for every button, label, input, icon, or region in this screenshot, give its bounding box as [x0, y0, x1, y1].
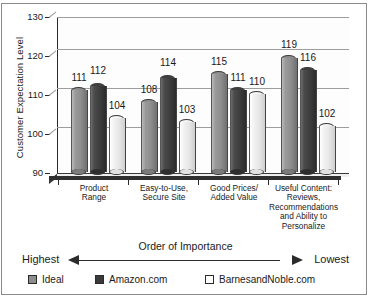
bar-base — [230, 169, 245, 175]
bar-body — [281, 58, 298, 172]
bar-barnesandnoble-3[interactable]: 110 — [249, 94, 264, 172]
bar-base — [249, 169, 264, 175]
y-tick-label-90: 90 — [19, 168, 43, 177]
bar-group-product-range: 111 112 104 — [71, 16, 133, 172]
y-tick-label-110: 110 — [19, 90, 43, 99]
legend-label: Amazon.com — [109, 274, 167, 285]
grid-riser-100 — [49, 129, 57, 135]
bar-value-label: 116 — [293, 53, 323, 63]
bar-value-label: 114 — [153, 58, 183, 68]
category-line: Personalize — [268, 222, 339, 231]
bar-body — [141, 102, 158, 172]
legend-label: Ideal — [42, 274, 64, 285]
bar-amazon-2[interactable]: 114 — [160, 78, 175, 172]
chart-legend: Ideal Amazon.com BarnesandNoble.com — [0, 274, 371, 292]
chart-container: Customer Expectation Level 130 120 110 1… — [0, 0, 371, 299]
arrow-right-icon — [292, 255, 303, 265]
bar-ideal-1[interactable]: 111 — [71, 90, 86, 172]
bar-barnesandnoble-4[interactable]: 102 — [319, 126, 334, 172]
bar-body — [71, 90, 88, 172]
bar-base — [71, 169, 86, 175]
bar-barnesandnoble-2[interactable]: 103 — [179, 122, 194, 172]
y-tick-label-130: 130 — [19, 12, 43, 21]
importance-lowest-label: Lowest — [314, 253, 349, 265]
category-line: Secure Site — [129, 193, 199, 202]
y-tick-label-100: 100 — [19, 129, 43, 138]
floor-front-edge — [49, 176, 341, 180]
plot-area: 130 120 110 100 90 111 — [49, 17, 349, 180]
category-separator — [58, 180, 59, 185]
bar-base — [141, 169, 156, 175]
bar-value-label: 119 — [274, 40, 304, 50]
bar-base — [281, 169, 296, 175]
bar-base — [319, 169, 334, 175]
legend-swatch-icon — [205, 275, 214, 284]
legend-item-barnesandnoble[interactable]: BarnesandNoble.com — [205, 274, 315, 285]
legend-item-ideal[interactable]: Ideal — [28, 274, 64, 285]
bar-barnesandnoble-1[interactable]: 104 — [109, 118, 124, 172]
bar-ideal-2[interactable]: 108 — [141, 102, 156, 172]
bar-body — [179, 122, 196, 172]
bar-base — [160, 169, 175, 175]
category-line: Range — [61, 193, 127, 202]
bar-base — [179, 169, 194, 175]
bar-body — [230, 90, 247, 172]
bar-body — [109, 118, 126, 172]
bar-amazon-3[interactable]: 111 — [230, 90, 245, 172]
bar-body — [90, 86, 107, 172]
y-tick-label-120: 120 — [19, 51, 43, 60]
importance-direction-row: Highest Lowest — [0, 253, 371, 269]
category-label-easy-to-use: Easy-to-Use, Secure Site — [129, 184, 199, 203]
arrow-line — [78, 260, 280, 261]
bar-base — [90, 169, 105, 175]
bar-body — [249, 94, 266, 172]
bar-body — [211, 74, 228, 172]
importance-highest-label: Highest — [22, 253, 59, 265]
bar-body — [160, 78, 177, 172]
bar-group-easy-to-use: 108 114 103 — [141, 16, 203, 172]
bar-base — [109, 169, 124, 175]
category-label-useful-content: Useful Content: Reviews, Recommendations… — [268, 184, 339, 231]
bar-value-label: 104 — [102, 101, 132, 111]
bar-value-label: 115 — [204, 57, 234, 67]
bar-value-label: 110 — [242, 77, 272, 87]
bar-base — [300, 169, 315, 175]
legend-swatch-icon — [28, 275, 37, 284]
bar-ideal-3[interactable]: 115 — [211, 74, 226, 172]
x-axis-title: Order of Importance — [0, 240, 371, 252]
bar-amazon-4[interactable]: 116 — [300, 70, 315, 172]
bar-body — [300, 70, 317, 172]
bar-group-good-prices: 115 111 110 — [211, 16, 273, 172]
bar-value-label: 112 — [83, 66, 113, 76]
bar-base — [211, 169, 226, 175]
legend-item-amazon[interactable]: Amazon.com — [95, 274, 167, 285]
bar-value-label: 103 — [172, 105, 202, 115]
bar-ideal-4[interactable]: 119 — [281, 58, 296, 172]
bar-amazon-1[interactable]: 112 — [90, 86, 105, 172]
grid-riser-110 — [49, 90, 57, 96]
bar-group-useful-content: 119 116 102 — [281, 16, 343, 172]
grid-riser-120 — [49, 51, 57, 57]
legend-swatch-icon — [95, 275, 104, 284]
y-axis-line — [57, 17, 58, 174]
bar-value-label: 102 — [312, 109, 342, 119]
category-line: Added Value — [199, 193, 269, 202]
category-label-good-prices: Good Prices/ Added Value — [199, 184, 269, 203]
category-label-product-range: Product Range — [61, 184, 127, 203]
legend-label: BarnesandNoble.com — [219, 274, 315, 285]
bar-body — [319, 126, 336, 172]
